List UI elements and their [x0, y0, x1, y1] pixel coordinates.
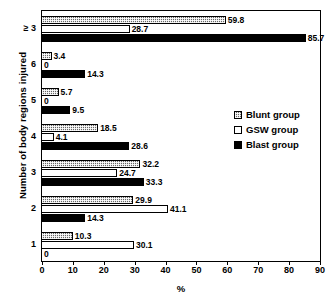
legend-item-blunt[interactable]: Blunt group	[234, 108, 300, 121]
bar-blast[interactable]	[41, 214, 85, 222]
bar-row: 41.1	[0, 205, 336, 213]
data-label: 41.1	[168, 204, 187, 213]
bar-gsw[interactable]	[41, 169, 117, 177]
x-tick-label-1: 10	[58, 265, 88, 275]
x-tick-label-6: 60	[212, 265, 242, 275]
x-tick-label-7: 70	[243, 265, 273, 275]
bar-row: 3.4	[0, 52, 336, 60]
data-label: 9.5	[70, 105, 84, 114]
bar-group: 29.941.114.3	[0, 196, 336, 223]
data-label: 28.6	[129, 141, 148, 150]
x-axis-title: %	[41, 283, 321, 294]
bar-blast[interactable]	[41, 178, 144, 186]
bar-blunt[interactable]	[41, 196, 133, 204]
x-tick-label-8: 80	[274, 265, 304, 275]
bar-blunt[interactable]	[41, 124, 98, 132]
bar-group: 59.828.785.7	[0, 16, 336, 43]
bar-blast[interactable]	[41, 106, 70, 114]
bar-row: 33.3	[0, 178, 336, 186]
bar-row: 0	[0, 61, 336, 69]
data-label: 28.7	[130, 24, 149, 33]
legend-swatch-gsw-icon	[234, 126, 242, 134]
bar-group: 10.330.10	[0, 232, 336, 259]
bar-row: 0	[0, 97, 336, 105]
bar-row: 85.7	[0, 34, 336, 42]
bar-row: 59.8	[0, 16, 336, 24]
legend-label: GSW group	[246, 124, 298, 135]
legend-label: Blast group	[246, 139, 299, 150]
data-label: 5.7	[59, 87, 73, 96]
x-tick-label-9: 90	[305, 265, 335, 275]
data-label: 32.2	[140, 159, 159, 168]
data-label: 14.3	[85, 69, 104, 78]
bar-gsw[interactable]	[41, 241, 134, 249]
data-label: 29.9	[133, 195, 152, 204]
x-tick-label-5: 50	[181, 265, 211, 275]
bar-group: 3.4014.3	[0, 52, 336, 79]
data-label: 14.3	[85, 213, 104, 222]
legend-item-blast[interactable]: Blast group	[234, 138, 300, 151]
legend-item-gsw[interactable]: GSW group	[234, 123, 300, 136]
data-label: 85.7	[306, 33, 325, 42]
x-tick-label-2: 20	[89, 265, 119, 275]
bar-row: 0	[0, 250, 336, 258]
legend-swatch-blast-icon	[234, 141, 242, 149]
chart-legend: Blunt groupGSW groupBlast group	[234, 108, 300, 153]
bar-row: 5.7	[0, 88, 336, 96]
data-label: 33.3	[144, 177, 163, 186]
x-tick-label-0: 0	[27, 265, 57, 275]
bar-row: 28.7	[0, 25, 336, 33]
data-label: 59.8	[226, 15, 245, 24]
data-label: 0	[42, 96, 49, 105]
bar-group: 32.224.733.3	[0, 160, 336, 187]
x-tick-label-4: 40	[151, 265, 181, 275]
bar-gsw[interactable]	[41, 133, 54, 141]
data-label: 0	[42, 60, 49, 69]
bar-row: 32.2	[0, 160, 336, 168]
data-label: 10.3	[73, 231, 92, 240]
data-label: 24.7	[117, 168, 136, 177]
bar-row: 24.7	[0, 169, 336, 177]
bar-gsw[interactable]	[41, 25, 130, 33]
data-label: 18.5	[98, 123, 117, 132]
legend-label: Blunt group	[246, 109, 300, 120]
bar-blast[interactable]	[41, 70, 85, 78]
bar-row: 30.1	[0, 241, 336, 249]
bar-row: 29.9	[0, 196, 336, 204]
x-tick-label-3: 30	[120, 265, 150, 275]
bar-blunt[interactable]	[41, 232, 73, 240]
data-label: 3.4	[52, 51, 66, 60]
bar-blast[interactable]	[41, 142, 129, 150]
bar-chart: Number of body regions injured ≥ 3654321…	[0, 0, 336, 305]
bar-row: 14.3	[0, 70, 336, 78]
bar-gsw[interactable]	[41, 205, 168, 213]
data-label: 0	[42, 249, 49, 258]
data-label: 4.1	[54, 132, 68, 141]
data-label: 30.1	[134, 240, 153, 249]
bar-row: 10.3	[0, 232, 336, 240]
legend-swatch-blunt-icon	[234, 111, 242, 119]
bar-row: 14.3	[0, 214, 336, 222]
bar-blast[interactable]	[41, 34, 306, 42]
